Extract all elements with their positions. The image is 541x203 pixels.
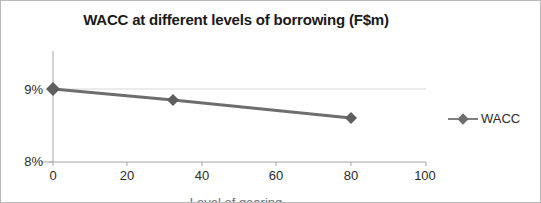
x-axis-tick-label-100: 100 — [405, 169, 445, 182]
chart-legend: WACC — [448, 111, 520, 126]
x-axis-title: Level of gearing — [1, 195, 471, 203]
y-axis-tick-label-8pct: 8% — [7, 155, 43, 168]
y-axis-ticks — [49, 89, 53, 162]
series-line-wacc — [53, 89, 351, 118]
x-axis-ticks — [53, 162, 426, 166]
legend-item-label-wacc: WACC — [481, 111, 520, 126]
x-axis-tick-label-20: 20 — [107, 169, 147, 182]
y-axis-tick-label-9pct: 9% — [7, 83, 43, 96]
x-axis-tick-label-60: 60 — [256, 169, 296, 182]
data-point-0 — [46, 82, 60, 96]
data-point-32 — [167, 94, 179, 106]
diamond-line-marker-icon — [448, 113, 478, 125]
x-axis-tick-label-80: 80 — [331, 169, 371, 182]
chart-container: WACC at different levels of borrowing (F… — [0, 0, 541, 203]
x-axis-tick-label-40: 40 — [182, 169, 222, 182]
data-point-80 — [345, 112, 357, 124]
x-axis-tick-label-0: 0 — [33, 169, 73, 182]
